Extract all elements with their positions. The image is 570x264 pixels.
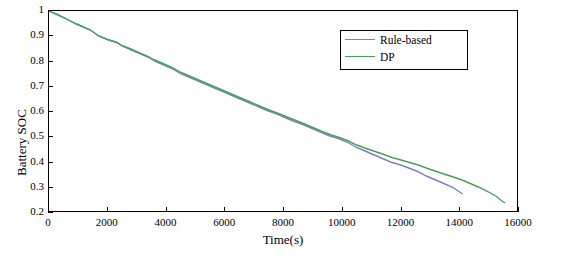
- y-tick-mark: [48, 86, 53, 87]
- x-tick-label: 14000: [429, 216, 489, 228]
- legend-label-rule-based: Rule-based: [380, 34, 432, 46]
- x-tick-mark: [224, 207, 225, 212]
- legend-swatch-rule-based: [345, 39, 375, 40]
- y-tick-mark: [48, 111, 53, 112]
- y-tick-label: 0.7: [6, 79, 44, 91]
- legend-item-dp: DP: [341, 48, 467, 65]
- x-tick-label: 0: [18, 216, 78, 228]
- y-tick-label: 0.9: [6, 28, 44, 40]
- x-tick-mark: [283, 207, 284, 212]
- y-tick-mark: [48, 10, 53, 11]
- x-tick-label: 12000: [371, 216, 431, 228]
- y-tick-mark: [48, 187, 53, 188]
- x-tick-mark: [48, 207, 49, 212]
- legend-item-rule-based: Rule-based: [341, 31, 467, 48]
- y-tick-label: 0.5: [6, 129, 44, 141]
- x-tick-label: 6000: [194, 216, 254, 228]
- y-tick-mark: [48, 162, 53, 163]
- legend-label-dp: DP: [380, 51, 395, 63]
- y-tick-label: 1: [6, 3, 44, 15]
- x-tick-mark: [107, 207, 108, 212]
- legend: Rule-based DP: [340, 30, 468, 70]
- x-tick-label: 10000: [312, 216, 372, 228]
- y-tick-mark: [48, 35, 53, 36]
- y-tick-mark: [48, 136, 53, 137]
- y-tick-label: 0.6: [6, 104, 44, 116]
- y-tick-label: 0.8: [6, 54, 44, 66]
- x-tick-mark: [401, 207, 402, 212]
- y-tick-mark: [48, 212, 53, 213]
- x-tick-label: 2000: [77, 216, 137, 228]
- chart-container: Battery SOC Time(s) 0.20.30.40.50.60.70.…: [0, 0, 570, 264]
- x-tick-mark: [459, 207, 460, 212]
- y-tick-label: 0.3: [6, 180, 44, 192]
- x-tick-label: 8000: [253, 216, 313, 228]
- x-axis-title: Time(s): [48, 232, 518, 248]
- y-tick-mark: [48, 61, 53, 62]
- x-tick-label: 16000: [488, 216, 548, 228]
- x-tick-mark: [518, 207, 519, 212]
- x-tick-mark: [166, 207, 167, 212]
- x-tick-mark: [342, 207, 343, 212]
- x-tick-label: 4000: [136, 216, 196, 228]
- legend-swatch-dp: [345, 56, 375, 57]
- y-tick-label: 0.4: [6, 155, 44, 167]
